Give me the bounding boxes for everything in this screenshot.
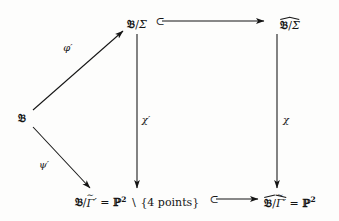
bottom-inclusion-hook-icon: ⊂	[209, 193, 218, 206]
gamma-tilde-group: ∼Γ	[87, 197, 95, 208]
node-bottom-right: 𝔅/∼Γ′ = ℙ2	[264, 195, 316, 209]
setminus-glyph: ∖	[130, 196, 137, 209]
node-top-left: 𝔅/Σ	[127, 19, 147, 30]
subset-glyph: ⊂	[209, 193, 218, 206]
top-inclusion-hook-icon: ⊂	[155, 15, 164, 28]
tilde-accent-icon: ∼	[276, 191, 284, 200]
label-phi-prime: φ′	[63, 42, 72, 53]
node-bottom-left: 𝔅/∼Γ′ = ℙ2 ∖ {4 points}	[75, 196, 199, 209]
commutative-diagram: 𝔅 𝔅/Σ 𝔅/Σ 𝔅/∼Γ′ = ℙ2 ∖ {4 points} 𝔅/∼Γ′ …	[0, 0, 339, 221]
gamma-tilde-group: ∼Γ	[276, 198, 284, 209]
frak-b-glyph: 𝔅	[127, 18, 135, 31]
sigma-glyph: Σ	[139, 18, 147, 31]
subset-glyph: ⊂	[155, 15, 164, 28]
equals-glyph: =	[100, 196, 109, 209]
tilde-accent-icon: ∼	[87, 190, 95, 199]
node-top-right: 𝔅/Σ	[280, 17, 300, 31]
exponent-two: 2	[121, 195, 126, 204]
four-points-label: {4 points}	[140, 196, 199, 209]
label-psi-prime: ψ′	[39, 159, 49, 170]
node-source: 𝔅	[18, 113, 26, 124]
exponent-two: 2	[311, 195, 316, 204]
prime-glyph: ′	[284, 197, 287, 210]
node-source-label: 𝔅	[18, 112, 26, 125]
equals-glyph: =	[290, 197, 299, 210]
sigma-glyph: Σ	[292, 19, 300, 32]
label-chi-prime: χ′	[142, 114, 150, 125]
frak-b-glyph: 𝔅	[264, 197, 272, 210]
arrow-phi-prime	[33, 31, 123, 110]
widehat-group: 𝔅/Σ	[280, 17, 300, 31]
frak-b-glyph: 𝔅	[280, 19, 288, 32]
frak-b-glyph: 𝔅	[75, 196, 83, 209]
label-chi: χ	[283, 114, 289, 125]
arrow-psi-prime	[33, 127, 90, 188]
arrow-layer	[0, 0, 339, 221]
prime-glyph: ′	[94, 196, 97, 209]
widehat-group: 𝔅/∼Γ′	[264, 195, 286, 209]
